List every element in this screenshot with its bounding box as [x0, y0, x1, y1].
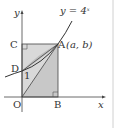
axis-x-label: x: [98, 99, 104, 110]
point-a-coords: (a, b): [66, 39, 93, 50]
point-a-label: A: [57, 39, 66, 50]
point-b-label: B: [54, 99, 61, 110]
y-axis-arrow-icon: [21, 10, 24, 14]
point-d-label: D: [11, 63, 19, 74]
d-value-label: 1: [24, 70, 30, 81]
diagram-canvas: y x y = 4x C A (a, b) D 1 O B: [0, 0, 116, 128]
point-o-label: O: [13, 99, 21, 110]
axis-y-label: y: [13, 7, 20, 18]
curve-label: y = 4x: [59, 5, 90, 16]
point-c-label: C: [10, 39, 18, 50]
